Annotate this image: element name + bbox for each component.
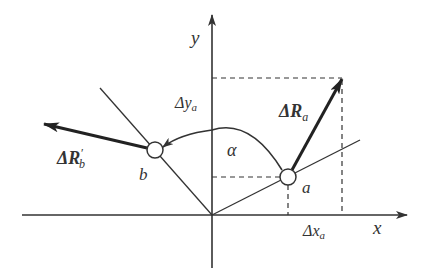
delta-r-a-label: ΔRa: [278, 101, 308, 124]
point-b-label: b: [139, 165, 148, 184]
delta-x-a-label: Δxa: [302, 222, 326, 241]
point-a-label: a: [302, 178, 311, 197]
vector-delta-r-b-prime: [44, 124, 147, 148]
delta-r-b-prime-label: ΔR′b: [56, 146, 85, 171]
rotation-arc: [163, 128, 282, 170]
y-axis-label: y: [189, 27, 200, 48]
vector-delta-r-a: [292, 79, 342, 170]
delta-y-a-label: Δya: [174, 94, 198, 113]
point-a-circle: [280, 169, 296, 185]
angle-alpha-label: α: [227, 140, 237, 160]
rotation-diagram: y x Δya Δxa ΔRa ΔR′b α a b: [0, 0, 429, 277]
point-b-circle: [147, 142, 163, 158]
x-axis-label: x: [372, 217, 382, 238]
